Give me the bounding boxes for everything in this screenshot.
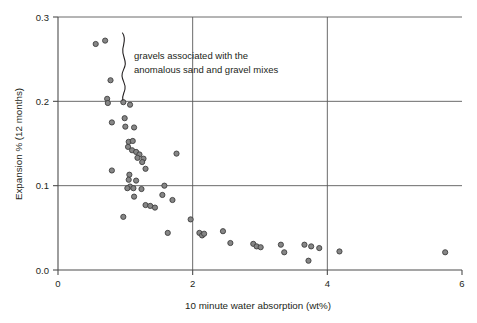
data-point [337, 249, 342, 254]
data-point [162, 183, 167, 188]
x-tick-label: 0 [55, 278, 60, 289]
data-point [152, 205, 157, 210]
data-point [108, 78, 113, 83]
data-point [160, 192, 165, 197]
scatter-chart: 02460.00.10.20.3 10 minute water absorpt… [0, 0, 477, 323]
data-point [258, 245, 263, 250]
data-point [93, 41, 98, 46]
x-tick-label: 4 [325, 278, 330, 289]
data-point [122, 116, 127, 121]
data-point [140, 159, 145, 164]
data-point [127, 172, 132, 177]
data-point [131, 186, 136, 191]
annotation-line-2: anomalous sand and gravel mixes [134, 64, 278, 75]
data-point [443, 250, 448, 255]
data-point [306, 258, 311, 263]
y-tick-label: 0.1 [36, 180, 49, 191]
data-point [143, 166, 148, 171]
data-point [170, 197, 175, 202]
data-point [202, 231, 207, 236]
data-point [123, 124, 128, 129]
data-point [125, 186, 130, 191]
data-point [165, 230, 170, 235]
data-point [278, 242, 283, 247]
annotation-brace-icon [122, 33, 125, 100]
plot-area: 02460.00.10.20.3 10 minute water absorpt… [0, 0, 477, 323]
data-point [220, 229, 225, 234]
data-point [302, 242, 307, 247]
y-tick-label: 0.0 [36, 265, 49, 276]
data-point [282, 250, 287, 255]
y-tick-label: 0.2 [36, 96, 49, 107]
data-point [127, 102, 132, 107]
data-point [309, 244, 314, 249]
y-axis-title: Expansion % (12 months) [13, 88, 24, 200]
y-tick-label: 0.3 [36, 12, 49, 23]
gridlines [58, 17, 462, 270]
data-point [131, 125, 136, 130]
data-point [121, 214, 126, 219]
data-point [139, 186, 144, 191]
data-point [131, 194, 136, 199]
annotation-line-1: gravels associated with the [134, 50, 248, 61]
data-point [317, 245, 322, 250]
data-point [174, 151, 179, 156]
data-point [109, 120, 114, 125]
data-point [121, 100, 126, 105]
data-point [126, 177, 131, 182]
data-point [188, 217, 193, 222]
axes [58, 17, 462, 270]
data-point [109, 168, 114, 173]
data-point [105, 100, 110, 105]
data-point [135, 155, 140, 160]
x-tick-label: 6 [459, 278, 464, 289]
data-point [228, 240, 233, 245]
x-tick-label: 2 [190, 278, 195, 289]
x-axis-title: 10 minute water absorption (wt%) [185, 300, 331, 311]
tick-marks [53, 17, 462, 275]
data-point [103, 38, 108, 43]
data-point [130, 138, 135, 143]
data-point [134, 178, 139, 183]
tick-labels: 02460.00.10.20.3 [36, 12, 465, 290]
